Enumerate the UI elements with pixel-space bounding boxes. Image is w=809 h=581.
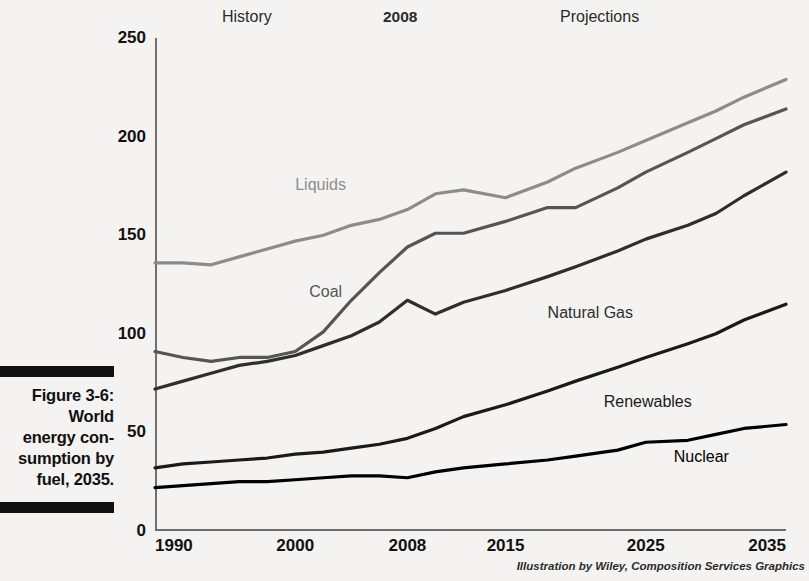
series-line-renewables bbox=[155, 304, 786, 468]
y-tick-200: 200 bbox=[118, 127, 146, 147]
band-label-divider-year: 2008 bbox=[383, 8, 417, 26]
illustration-credit: Illustration by Wiley, Composition Servi… bbox=[517, 560, 805, 572]
y-axis-tick-labels: 050100150200250 bbox=[96, 38, 146, 531]
y-tick-150: 150 bbox=[118, 225, 146, 245]
series-label-natural-gas: Natural Gas bbox=[548, 304, 633, 322]
x-tick-2015: 2015 bbox=[487, 536, 525, 556]
series-label-coal: Coal bbox=[309, 283, 342, 301]
series-label-liquids: Liquids bbox=[295, 176, 346, 194]
series-line-liquids bbox=[155, 79, 786, 264]
series-label-renewables: Renewables bbox=[604, 393, 692, 411]
band-label-history: History bbox=[222, 8, 272, 26]
figure-world-energy-consumption: Figure 3-6: World energy con- sumption b… bbox=[0, 0, 809, 581]
x-tick-2000: 2000 bbox=[276, 536, 314, 556]
y-tick-100: 100 bbox=[118, 324, 146, 344]
x-tick-1990: 1990 bbox=[155, 536, 193, 556]
x-axis-tick-labels: 199020002008201520252035 bbox=[155, 536, 809, 562]
y-tick-250: 250 bbox=[118, 28, 146, 48]
x-tick-2008: 2008 bbox=[388, 536, 426, 556]
y-tick-50: 50 bbox=[127, 422, 146, 442]
x-tick-2025: 2025 bbox=[627, 536, 665, 556]
x-tick-2035: 2035 bbox=[748, 536, 786, 556]
y-tick-0: 0 bbox=[137, 521, 146, 541]
band-label-projections: Projections bbox=[560, 8, 639, 26]
series-label-nuclear: Nuclear bbox=[674, 448, 729, 466]
series-line-coal bbox=[155, 109, 786, 361]
